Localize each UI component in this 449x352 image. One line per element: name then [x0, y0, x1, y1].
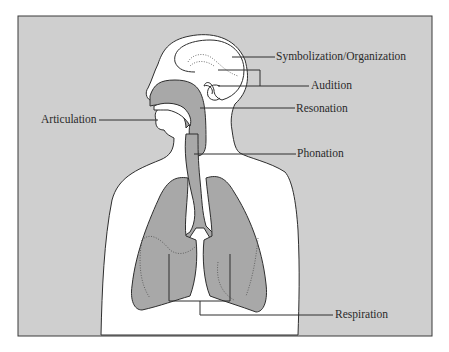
- label-symbolization: Symbolization/Organization: [276, 51, 406, 63]
- label-respiration: Respiration: [335, 309, 388, 321]
- label-audition: Audition: [311, 80, 352, 92]
- label-articulation: Articulation: [41, 114, 97, 126]
- label-resonation: Resonation: [296, 103, 348, 115]
- label-phonation: Phonation: [297, 148, 344, 160]
